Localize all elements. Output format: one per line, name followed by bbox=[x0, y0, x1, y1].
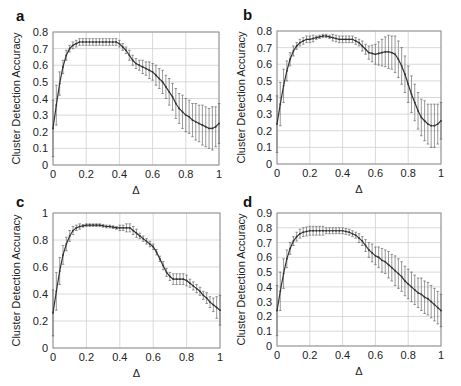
y-tick-label: 0.3 bbox=[33, 109, 48, 121]
y-tick-label: 0.6 bbox=[257, 251, 272, 263]
y-tick-label: 0.6 bbox=[33, 261, 48, 273]
y-tick-label: 0 bbox=[266, 158, 272, 170]
y-tick-label: 0.6 bbox=[257, 58, 272, 70]
y-tick-label: 0.5 bbox=[33, 76, 48, 88]
x-axis-label: Δ bbox=[133, 367, 141, 379]
panel-d: 00.20.40.60.8100.10.20.30.40.50.60.70.80… bbox=[235, 207, 444, 377]
panel-c: 00.20.40.60.8100.20.40.60.81ΔCluster Det… bbox=[10, 207, 223, 379]
x-tick-label: 0.8 bbox=[401, 349, 416, 361]
y-tick-label: 0 bbox=[42, 159, 48, 171]
x-tick-label: 0.2 bbox=[79, 168, 94, 180]
x-tick-label: 1 bbox=[216, 168, 222, 180]
x-tick-label: 0.4 bbox=[335, 167, 350, 179]
error-bars bbox=[52, 224, 222, 336]
x-axis-label: Δ bbox=[132, 184, 140, 196]
x-tick-label: 0.6 bbox=[368, 167, 383, 179]
y-tick-labels: 00.10.20.30.40.50.60.70.8 bbox=[257, 25, 272, 170]
x-tick-labels: 00.20.40.60.81 bbox=[50, 168, 222, 180]
y-tick-label: 0.3 bbox=[257, 108, 272, 120]
mean-accuracy-line bbox=[53, 225, 220, 313]
x-tick-label: 0.2 bbox=[302, 349, 317, 361]
y-tick-labels: 00.20.40.60.81 bbox=[33, 207, 48, 354]
y-tick-label: 0.7 bbox=[257, 237, 272, 249]
x-tick-label: 0.6 bbox=[146, 351, 161, 363]
y-tick-label: 0.6 bbox=[33, 59, 48, 71]
panel-b: 00.20.40.60.8100.10.20.30.40.50.60.70.8Δ… bbox=[235, 25, 444, 195]
y-tick-label: 0.4 bbox=[33, 93, 48, 105]
x-tick-label: 0.8 bbox=[179, 351, 194, 363]
y-tick-label: 0.7 bbox=[257, 42, 272, 54]
y-tick-label: 0.9 bbox=[257, 207, 272, 219]
y-tick-label: 0.1 bbox=[257, 141, 272, 153]
y-tick-label: 0.1 bbox=[33, 142, 48, 154]
x-tick-labels: 00.20.40.60.81 bbox=[50, 351, 223, 363]
x-axis-label: Δ bbox=[355, 365, 363, 377]
y-tick-label: 0.2 bbox=[257, 125, 272, 137]
x-tick-label: 0.8 bbox=[401, 167, 416, 179]
x-tick-label: 0.4 bbox=[112, 168, 127, 180]
data-markers bbox=[52, 41, 220, 129]
y-tick-label: 0.2 bbox=[33, 315, 48, 327]
error-bars bbox=[52, 39, 221, 157]
x-tick-label: 0.2 bbox=[302, 167, 317, 179]
y-tick-label: 0.5 bbox=[257, 75, 272, 87]
y-tick-label: 0 bbox=[266, 340, 272, 352]
x-tick-label: 0.2 bbox=[79, 351, 94, 363]
y-tick-label: 0.7 bbox=[33, 43, 48, 55]
x-tick-label: 0.4 bbox=[112, 351, 127, 363]
y-tick-label: 0.8 bbox=[257, 25, 272, 37]
panel-a: 00.20.40.60.8100.10.20.30.40.50.60.70.8Δ… bbox=[10, 26, 222, 196]
x-tick-label: 1 bbox=[438, 167, 444, 179]
grid-lines bbox=[53, 32, 219, 165]
y-axis-label: Cluster Detection Accuracy bbox=[235, 213, 247, 346]
grid-lines bbox=[277, 31, 441, 164]
y-tick-label: 0 bbox=[42, 342, 48, 354]
y-tick-label: 0.2 bbox=[257, 310, 272, 322]
x-tick-labels: 00.20.40.60.81 bbox=[274, 167, 444, 179]
y-tick-label: 0.2 bbox=[33, 126, 48, 138]
x-tick-label: 0 bbox=[274, 349, 280, 361]
y-tick-label: 0.5 bbox=[257, 266, 272, 278]
x-tick-label: 0 bbox=[274, 167, 280, 179]
y-axis-label: Cluster Detection Accuracy bbox=[10, 214, 22, 347]
y-tick-label: 1 bbox=[42, 207, 48, 219]
x-axis-label: Δ bbox=[355, 183, 363, 195]
y-axis-label: Cluster Detection Accuracy bbox=[10, 32, 22, 165]
x-tick-label: 0.6 bbox=[368, 349, 383, 361]
y-tick-label: 0.8 bbox=[257, 222, 272, 234]
y-tick-label: 0.8 bbox=[33, 26, 48, 38]
chart-canvas: 00.20.40.60.8100.10.20.30.40.50.60.70.8Δ… bbox=[0, 0, 461, 386]
x-tick-label: 0 bbox=[50, 351, 56, 363]
y-tick-label: 0.8 bbox=[33, 234, 48, 246]
y-tick-label: 0.4 bbox=[257, 92, 272, 104]
y-axis-label: Cluster Detection Accuracy bbox=[235, 31, 247, 164]
y-tick-label: 0.3 bbox=[257, 296, 272, 308]
error-bars bbox=[276, 34, 443, 152]
y-tick-label: 0.4 bbox=[257, 281, 272, 293]
y-tick-label: 0.4 bbox=[33, 288, 48, 300]
x-tick-labels: 00.20.40.60.81 bbox=[274, 349, 444, 361]
x-tick-label: 1 bbox=[438, 349, 444, 361]
x-tick-label: 0.4 bbox=[335, 349, 350, 361]
x-tick-label: 0 bbox=[50, 168, 56, 180]
y-tick-label: 0.1 bbox=[257, 325, 272, 337]
y-tick-labels: 00.10.20.30.40.50.60.70.8 bbox=[33, 26, 48, 171]
y-tick-labels: 00.10.20.30.40.50.60.70.80.9 bbox=[257, 207, 272, 352]
x-tick-label: 1 bbox=[217, 351, 223, 363]
data-markers bbox=[52, 224, 221, 314]
x-tick-label: 0.8 bbox=[178, 168, 193, 180]
x-tick-label: 0.6 bbox=[145, 168, 160, 180]
